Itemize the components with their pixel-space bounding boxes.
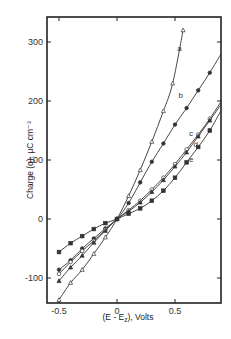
curve-d [59, 104, 221, 281]
x-tick-label: -0.5 [51, 306, 67, 316]
curve-a [59, 30, 183, 300]
x-axis-label: (E - Ez), Volts [103, 312, 154, 323]
x-tick-label: 0.5 [169, 306, 182, 316]
y-tick-label: 200 [28, 96, 43, 106]
axis-ticks: -0.500.5-1000100200300 [25, 17, 221, 316]
curve-labels: abcde [177, 44, 198, 165]
curve-label-d: d [194, 140, 198, 149]
y-tick-label: 300 [28, 37, 43, 47]
curve-label-a: a [177, 44, 182, 53]
data-curves [57, 28, 221, 301]
y-tick-label: 0 [38, 214, 43, 224]
curve-label-e: e [189, 155, 194, 164]
curve-label-c: c [189, 129, 193, 138]
curve-label-b: b [178, 91, 183, 100]
y-tick-label: -100 [25, 273, 43, 283]
y-axis-label: Charge (q), μC cm⁻² [25, 121, 35, 199]
charge-potential-chart: -0.500.5-1000100200300 abcde Charge (q),… [0, 0, 231, 339]
